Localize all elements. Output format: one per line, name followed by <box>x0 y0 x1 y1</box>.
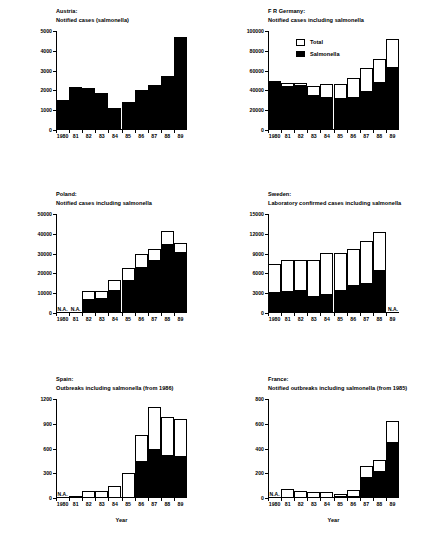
plot-area-fr-germany: 0200004000060000800001000001980818283848… <box>268 31 399 130</box>
bar-fr-germany-89 <box>386 31 399 130</box>
bar-france-85 <box>334 399 347 498</box>
x-tick <box>360 130 361 133</box>
chart-title-line1: F R Germany: <box>268 8 305 14</box>
x-tick-label: 86 <box>138 501 144 507</box>
bar-segment-salmonella <box>174 456 187 498</box>
bar-segment-total <box>307 492 320 498</box>
y-tick-label: 2000 <box>40 87 52 93</box>
x-tick-label: 83 <box>99 501 105 507</box>
bar-sweden-85 <box>334 214 347 313</box>
y-tick-label: 30000 <box>38 251 52 257</box>
x-tick-label: 85 <box>337 316 343 322</box>
chart-title-line1: France: <box>268 376 288 382</box>
x-tick <box>108 313 109 316</box>
x-tick <box>294 313 295 316</box>
x-tick-label: 89 <box>390 133 396 139</box>
x-tick <box>122 498 123 501</box>
bar-sweden-81 <box>281 214 294 313</box>
x-tick-label: 88 <box>164 316 170 322</box>
na-marker-spain-1980: N.A. <box>58 491 68 497</box>
x-tick <box>386 498 387 501</box>
x-tick-label: 1980 <box>269 133 281 139</box>
x-tick-label: 81 <box>73 133 79 139</box>
x-tick <box>334 498 335 501</box>
bar-segment-salmonella <box>347 285 360 313</box>
y-tick-label: 300 <box>43 470 52 476</box>
x-tick-label: 84 <box>112 133 118 139</box>
bar-spain-86 <box>135 399 148 498</box>
x-tick <box>320 498 321 501</box>
chart-title-fr-germany: F R Germany:Notified cases including sal… <box>268 7 364 24</box>
bar-segment-salmonella <box>281 291 294 313</box>
x-tick <box>307 313 308 316</box>
y-tick-label: 60000 <box>250 68 264 74</box>
x-tick <box>148 313 149 316</box>
bar-segment-salmonella <box>122 280 135 313</box>
y-tick-label: 600 <box>255 421 264 427</box>
x-tick <box>294 130 295 133</box>
plot-area-france: 02004006008001980818283848586878889N.A. <box>268 399 399 498</box>
bars-group: N.A.N.A. <box>56 214 187 313</box>
y-tick-label: 900 <box>43 421 52 427</box>
bar-segment-total <box>281 489 294 498</box>
x-tick-label: 87 <box>363 133 369 139</box>
x-tick-label: 86 <box>138 316 144 322</box>
chart-title-line2: Notified cases (salmonella) <box>56 16 129 25</box>
x-tick <box>307 498 308 501</box>
y-tick-label: 3000 <box>40 68 52 74</box>
bar-poland-87 <box>148 214 161 313</box>
legend-label: Salmonella <box>310 51 340 57</box>
bar-france-87 <box>360 399 373 498</box>
x-tick <box>281 313 282 316</box>
x-tick-label: 88 <box>376 133 382 139</box>
y-tick-label: 40000 <box>38 231 52 237</box>
bar-segment-salmonella <box>174 37 187 130</box>
bar-segment-salmonella <box>148 260 161 313</box>
x-tick <box>320 130 321 133</box>
x-tick-label: 84 <box>112 501 118 507</box>
x-tick-label: 87 <box>363 501 369 507</box>
x-tick <box>320 313 321 316</box>
x-tick-label: 83 <box>311 501 317 507</box>
x-tick <box>161 130 162 133</box>
chart-title-france: France:Notified outbreaks including salm… <box>268 375 407 392</box>
bar-segment-total <box>108 486 121 498</box>
chart-title-line1: Poland: <box>56 191 77 197</box>
x-axis-title-france: Year <box>268 517 399 523</box>
x-tick <box>373 313 374 316</box>
bar-fr-germany-88 <box>373 31 386 130</box>
bar-spain-85 <box>122 399 135 498</box>
bar-france-81 <box>281 399 294 498</box>
na-marker-poland-81: N.A. <box>71 306 81 312</box>
bars-group <box>56 31 187 130</box>
bar-segment-total <box>320 492 333 498</box>
bar-segment-salmonella <box>82 88 95 130</box>
chart-title-line1: Austria: <box>56 8 77 14</box>
legend-swatch-salmonella <box>296 51 305 58</box>
bar-spain-84 <box>108 399 121 498</box>
bar-segment-salmonella <box>281 86 294 130</box>
x-tick <box>360 313 361 316</box>
bar-segment-salmonella <box>69 87 82 130</box>
bar-france-88 <box>373 399 386 498</box>
plot-area-austria: 0100020003000400050001980818283848586878… <box>56 31 187 130</box>
x-tick-label: 84 <box>324 501 330 507</box>
na-marker-france-1980: N.A. <box>270 491 280 497</box>
y-tick-label: 15000 <box>250 211 264 217</box>
bar-france-82 <box>294 399 307 498</box>
x-tick-label: 89 <box>178 316 184 322</box>
bars-group: N.A. <box>268 399 399 498</box>
bar-segment-salmonella <box>373 82 386 130</box>
bars-group: N.A. <box>268 214 399 313</box>
bar-sweden-82 <box>294 214 307 313</box>
bar-segment-salmonella <box>268 292 281 313</box>
x-tick <box>95 498 96 501</box>
legend-swatch-total <box>296 39 305 46</box>
x-tick <box>161 313 162 316</box>
bar-segment-salmonella <box>294 290 307 313</box>
x-tick <box>69 498 70 501</box>
x-tick <box>373 498 374 501</box>
y-tick-label: 4000 <box>40 48 52 54</box>
x-tick-label: 86 <box>350 133 356 139</box>
bar-fr-germany-81 <box>281 31 294 130</box>
